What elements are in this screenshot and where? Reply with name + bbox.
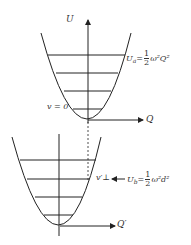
q-prime-axis-label: Q′: [117, 220, 126, 229]
v-perp-level-label: v′⊥: [96, 174, 110, 182]
ua-potential-label: Ua=12ω²Q²: [126, 50, 170, 67]
ub-potential-label: Ub=12ω²d²: [127, 171, 169, 188]
u-axis-label: U: [66, 15, 74, 24]
potential-wells-diagram: [0, 0, 191, 245]
v0-level-label: v = 0: [47, 103, 68, 111]
q-axis-label: Q: [146, 115, 153, 124]
bottom-well: [12, 134, 125, 236]
top-well: [41, 20, 143, 181]
